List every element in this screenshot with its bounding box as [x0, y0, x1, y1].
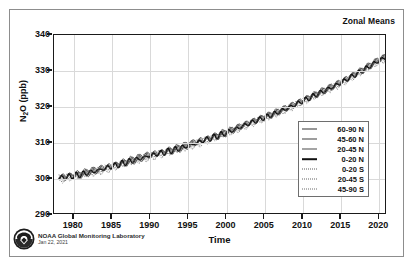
- legend-swatch-icon: [301, 165, 318, 174]
- gridline-vertical: [150, 35, 151, 213]
- chart-figure: Zonal Means 290300310320330340 N2O (ppb)…: [9, 9, 404, 257]
- legend-item[interactable]: 20-45 N: [301, 144, 365, 154]
- legend-item[interactable]: 20-45 S: [301, 174, 365, 184]
- legend-swatch-icon: [301, 185, 318, 194]
- legend-item[interactable]: 0-20 N: [301, 154, 365, 164]
- y-tick-mark: [47, 33, 52, 34]
- chart-legend[interactable]: 60-90 N45-60 N20-45 N0-20 N0-20 S20-45 S…: [298, 121, 369, 197]
- x-tick-label: 2010: [292, 220, 312, 230]
- x-tick-mark: [378, 214, 379, 219]
- gridline-vertical: [188, 35, 189, 213]
- y-axis-label: N2O (ppb): [18, 66, 28, 136]
- noaa-seal-logo: [13, 228, 35, 250]
- legend-swatch-icon: [301, 145, 318, 154]
- legend-swatch-icon: [301, 175, 318, 184]
- legend-swatch-icon: [301, 125, 318, 134]
- x-tick-label: 1995: [177, 220, 197, 230]
- legend-swatch-icon: [301, 155, 318, 164]
- x-tick-label: 2020: [368, 220, 388, 230]
- x-tick-mark: [263, 214, 264, 219]
- y-tick-mark: [47, 105, 52, 106]
- x-tick-mark: [187, 214, 188, 219]
- x-tick-mark: [149, 214, 150, 219]
- y-tick-mark: [47, 213, 52, 214]
- credit-block: NOAA Global Monitoring Laboratory Jan 22…: [13, 228, 145, 250]
- legend-label: 20-45 S: [318, 175, 365, 184]
- x-tick-label: 2015: [330, 220, 350, 230]
- y-tick-mark: [47, 177, 52, 178]
- legend-swatch-icon: [301, 135, 318, 144]
- legend-label: 20-45 N: [318, 145, 365, 154]
- legend-item[interactable]: 45-60 N: [301, 134, 365, 144]
- legend-item[interactable]: 60-90 N: [301, 124, 365, 134]
- chart-title: Zonal Means: [342, 16, 395, 26]
- x-tick-label: 2000: [216, 220, 236, 230]
- gridline-vertical: [74, 35, 75, 213]
- gridline-horizontal: [54, 71, 385, 72]
- legend-label: 0-20 N: [318, 155, 365, 164]
- x-tick-mark: [72, 214, 73, 219]
- legend-item[interactable]: 0-20 S: [301, 164, 365, 174]
- credit-text: NOAA Global Monitoring Laboratory Jan 22…: [38, 232, 145, 246]
- x-tick-label: 2005: [254, 220, 274, 230]
- gridline-vertical: [227, 35, 228, 213]
- credit-laboratory: NOAA Global Monitoring Laboratory: [38, 232, 145, 239]
- legend-label: 60-90 N: [318, 125, 365, 134]
- y-tick-mark: [47, 141, 52, 142]
- legend-item[interactable]: 45-90 S: [301, 184, 365, 194]
- gridline-vertical: [265, 35, 266, 213]
- credit-date: Jan 22, 2021: [38, 240, 145, 246]
- gridline-horizontal: [54, 107, 385, 108]
- x-tick-mark: [225, 214, 226, 219]
- gridline-vertical: [379, 35, 380, 213]
- gridline-vertical: [112, 35, 113, 213]
- legend-label: 0-20 S: [318, 165, 365, 174]
- x-tick-mark: [110, 214, 111, 219]
- legend-label: 45-60 N: [318, 135, 365, 144]
- legend-label: 45-90 S: [318, 185, 365, 194]
- x-tick-mark: [301, 214, 302, 219]
- y-tick-mark: [47, 69, 52, 70]
- x-tick-mark: [339, 214, 340, 219]
